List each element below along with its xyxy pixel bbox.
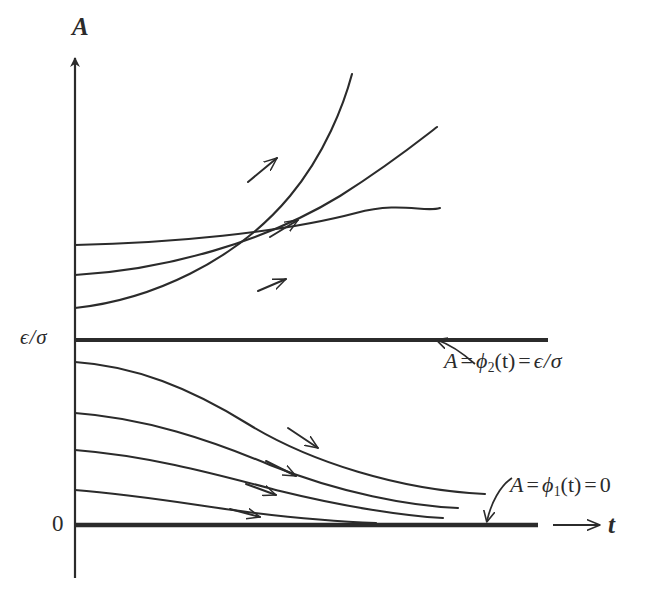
- arrowhead-upper-1: [248, 158, 277, 182]
- arrowhead-lower-1: [288, 428, 318, 448]
- arrowhead-upper-3: [258, 279, 286, 291]
- phi2-rhs-sigma: σ: [551, 348, 562, 373]
- upper-trajectories: [75, 74, 440, 308]
- leader-line-phi1: [487, 478, 512, 521]
- trajectory-lower-4: [75, 490, 376, 523]
- trajectory-upper-3: [75, 207, 440, 245]
- y-axis-label: A: [72, 14, 89, 39]
- equation-label-phi2: A=ϕ2(t)=ϵ/σ: [444, 350, 562, 375]
- x-axis-label: t: [608, 512, 615, 537]
- phi2-rhs-epsilon: ϵ: [534, 348, 543, 373]
- phi1-phi-glyph: ϕ: [542, 472, 553, 497]
- phi1-argument: (t): [561, 472, 582, 497]
- lower-trajectory-arrowheads: [230, 428, 318, 517]
- y-tick-label-eps-over-sigma: ϵ/σ: [20, 327, 47, 348]
- arrowhead-lower-2: [266, 461, 296, 476]
- phi1-lhs: A: [510, 472, 523, 497]
- phi1-rhs-zero: 0: [600, 472, 611, 497]
- phi2-rhs-slash: /: [543, 348, 551, 373]
- phase-portrait-figure: A t ϵ/σ 0 A=ϕ2(t)=ϵ/σ A=ϕ1(t)=0: [0, 0, 657, 606]
- equation-label-phi1: A=ϕ1(t)=0: [510, 474, 611, 499]
- phi1-subscript: 1: [553, 484, 560, 499]
- phi2-equals-2: =: [515, 348, 533, 373]
- phi2-phi-glyph: ϕ: [476, 348, 487, 373]
- phi1-equals-2: =: [581, 472, 599, 497]
- sigma-glyph: σ: [36, 325, 46, 349]
- upper-trajectory-arrowheads: [248, 158, 298, 291]
- phi2-lhs: A: [444, 348, 457, 373]
- phi2-argument: (t): [495, 348, 516, 373]
- plot-canvas: [0, 0, 657, 606]
- trajectory-upper-2: [75, 127, 437, 275]
- trajectory-upper-1: [75, 74, 352, 308]
- phi2-equals-1: =: [457, 348, 475, 373]
- phi2-subscript: 2: [487, 360, 494, 375]
- phi1-equals-1: =: [523, 472, 541, 497]
- trajectory-lower-1: [75, 362, 485, 494]
- lower-trajectories: [75, 362, 485, 523]
- y-tick-label-zero: 0: [52, 512, 64, 535]
